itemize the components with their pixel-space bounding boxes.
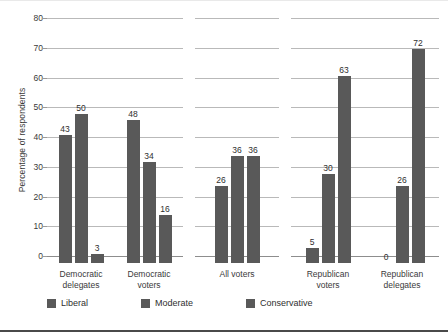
bar-item[interactable]: 26 xyxy=(396,25,409,263)
bar-item[interactable]: 16 xyxy=(159,25,172,263)
bar-group: 263636All voters xyxy=(195,25,279,263)
x-axis-category-label: Republicanvoters xyxy=(307,269,350,291)
bar-group: 53063Republicanvoters xyxy=(291,25,365,263)
bar[interactable] xyxy=(159,215,172,263)
bar-value-label: 72 xyxy=(413,38,422,48)
bar-group-bars: 02672 xyxy=(365,25,439,263)
x-axis-category-line: voters xyxy=(128,280,171,291)
bar-group: 43503Democraticdelegates xyxy=(47,25,115,263)
x-axis-category-line: All voters xyxy=(220,269,255,280)
legend-item[interactable]: Moderate xyxy=(141,298,193,308)
bar-value-label: 30 xyxy=(323,163,332,173)
bar-item[interactable]: 5 xyxy=(306,25,319,263)
bar-value-label: 26 xyxy=(216,175,225,185)
x-axis-category-label: Democraticdelegates xyxy=(60,269,103,291)
chart-legend: LiberalModerateConservative xyxy=(47,298,377,308)
bar-value-label: 26 xyxy=(397,175,406,185)
bar-value-label: 43 xyxy=(60,124,69,134)
bar[interactable] xyxy=(231,156,244,263)
bar-item[interactable]: 26 xyxy=(215,25,228,263)
y-axis-title: Percentage of respondents xyxy=(17,55,27,225)
bar-value-label: 0 xyxy=(384,252,389,262)
bar[interactable] xyxy=(75,114,88,263)
x-axis-category-line: Republican xyxy=(381,269,424,280)
bar-item[interactable]: 72 xyxy=(412,25,425,263)
legend-swatch-icon xyxy=(47,299,56,308)
gridline xyxy=(47,18,183,19)
legend-label: Conservative xyxy=(260,298,313,308)
x-axis-category-label: All voters xyxy=(220,269,255,280)
bar[interactable] xyxy=(59,135,72,263)
bar-value-label: 5 xyxy=(310,237,315,247)
bar-value-label: 36 xyxy=(232,145,241,155)
legend-swatch-icon xyxy=(141,299,150,308)
bar-value-label: 34 xyxy=(144,151,153,161)
bar-group-bars: 263636 xyxy=(195,25,279,263)
bar-group: 483416Democraticvoters xyxy=(115,25,183,263)
gridline xyxy=(195,18,279,19)
grouped-bar-chart: Percentage of respondents 01020304050607… xyxy=(0,0,448,336)
x-axis-category-line: Republican xyxy=(307,269,350,280)
bar-item[interactable]: 63 xyxy=(338,25,351,263)
bar[interactable] xyxy=(143,162,156,263)
bar-item[interactable]: 43 xyxy=(59,25,72,263)
bar-item[interactable]: 50 xyxy=(75,25,88,263)
bar[interactable] xyxy=(412,49,425,263)
bar[interactable] xyxy=(338,76,351,263)
bar-group-bars: 483416 xyxy=(115,25,183,263)
legend-label: Moderate xyxy=(155,298,193,308)
bar-item[interactable]: 34 xyxy=(143,25,156,263)
x-axis-category-line: delegates xyxy=(60,280,103,291)
bar[interactable] xyxy=(396,186,409,263)
bar-value-label: 48 xyxy=(128,109,137,119)
legend-swatch-icon xyxy=(246,299,255,308)
x-axis-category-line: voters xyxy=(307,280,350,291)
bar-item[interactable]: 3 xyxy=(91,25,104,263)
legend-item[interactable]: Conservative xyxy=(246,298,313,308)
bar-item[interactable]: 36 xyxy=(247,25,260,263)
bar-group: 02672Republicandelegates xyxy=(365,25,439,263)
bar[interactable] xyxy=(215,186,228,263)
bar-item[interactable]: 48 xyxy=(127,25,140,263)
x-axis-category-label: Democraticvoters xyxy=(128,269,171,291)
bar[interactable] xyxy=(91,254,104,263)
bar[interactable] xyxy=(247,156,260,263)
bar-value-label: 36 xyxy=(248,145,257,155)
bar-value-label: 63 xyxy=(339,65,348,75)
bottom-divider xyxy=(0,330,448,332)
gridline xyxy=(291,18,439,19)
x-axis-category-line: delegates xyxy=(381,280,424,291)
bar-item[interactable]: 30 xyxy=(322,25,335,263)
bar-value-label: 16 xyxy=(160,204,169,214)
bar-item[interactable]: 0 xyxy=(380,25,393,263)
plot-area: 01020304050607080 43503Democraticdelegat… xyxy=(47,18,439,263)
bar[interactable] xyxy=(306,248,319,263)
bar[interactable] xyxy=(127,120,140,263)
legend-item[interactable]: Liberal xyxy=(47,298,88,308)
x-axis-category-label: Republicandelegates xyxy=(381,269,424,291)
bar-group-bars: 53063 xyxy=(291,25,365,263)
y-tick-mark xyxy=(42,18,47,19)
legend-label: Liberal xyxy=(61,298,88,308)
x-axis-category-line: Democratic xyxy=(128,269,171,280)
bar-value-label: 3 xyxy=(95,243,100,253)
bar-item[interactable]: 36 xyxy=(231,25,244,263)
top-divider xyxy=(0,0,448,1)
x-axis-category-line: Democratic xyxy=(60,269,103,280)
bar[interactable] xyxy=(322,174,335,263)
bar-value-label: 50 xyxy=(76,103,85,113)
bar-group-bars: 43503 xyxy=(47,25,115,263)
